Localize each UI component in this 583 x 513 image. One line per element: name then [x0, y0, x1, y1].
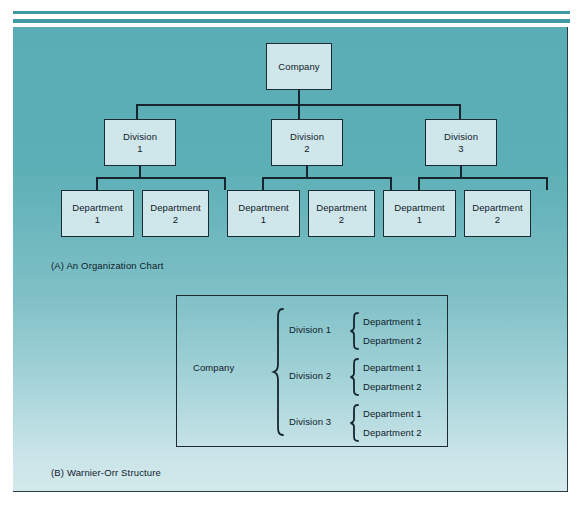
connector-bus-to-division-3 — [459, 104, 461, 119]
connector-division-3-to-department-1 — [418, 177, 420, 190]
warnier-department-2-1: Department 1 — [363, 358, 422, 377]
org-node-division-2: Division 2 — [271, 119, 343, 166]
warnier-root-label: Company — [193, 362, 234, 373]
caption-a: (A) An Organization Chart — [51, 260, 164, 271]
connector-division-2-to-department-2 — [390, 177, 392, 190]
org-node-department-3-1-line1: Department — [394, 202, 445, 214]
brace-inner-1-icon — [349, 312, 360, 350]
connector-division-1-to-department-2 — [224, 177, 226, 190]
org-node-department-1-1: Department 1 — [61, 190, 134, 237]
warnier-department-2-2: Department 2 — [363, 377, 422, 396]
brace-inner-2-icon — [349, 358, 360, 396]
brace-outer-icon — [272, 308, 286, 436]
brace-inner-3-icon — [349, 404, 360, 442]
top-rule-1 — [13, 11, 570, 14]
warnier-division-3-label: Division 3 — [289, 416, 331, 427]
org-node-department-1-1-line2: 1 — [95, 214, 100, 226]
connector-division-2-to-department-1 — [262, 177, 264, 190]
org-node-department-2-2-line2: 2 — [339, 214, 344, 226]
org-node-division-2-line2: 2 — [304, 143, 309, 155]
connector-division-1-down — [139, 166, 141, 177]
org-node-department-1-2-line2: 2 — [173, 214, 178, 226]
warnier-department-1-2: Department 2 — [363, 331, 422, 350]
caption-b: (B) Warnier-Orr Structure — [51, 467, 161, 478]
warnier-group-1: Division 1 Department 1 Department 2 — [289, 312, 449, 350]
connector-division-3-bus — [418, 177, 548, 179]
warnier-group-3-departments: Department 1 Department 2 — [363, 404, 422, 442]
warnier-department-1-1: Department 1 — [363, 312, 422, 331]
connector-division-2-down — [306, 166, 308, 177]
connector-division-3-to-department-2 — [546, 177, 548, 190]
org-node-division-3-line1: Division — [444, 131, 478, 143]
figure-panel: Company Division 1 Division 2 Division 3… — [13, 27, 568, 492]
org-node-division-3: Division 3 — [425, 119, 497, 166]
connector-company-down — [298, 90, 300, 104]
org-node-company: Company — [266, 43, 332, 90]
warnier-division-2-label: Division 2 — [289, 370, 331, 381]
warnier-group-1-departments: Department 1 Department 2 — [363, 312, 422, 350]
org-node-department-1-2-line1: Department — [150, 202, 201, 214]
warnier-group-3: Division 3 Department 1 Department 2 — [289, 404, 449, 442]
org-node-department-3-2-line1: Department — [472, 202, 523, 214]
org-node-department-2-1-line1: Department — [238, 202, 289, 214]
org-node-department-3-2: Department 2 — [464, 190, 531, 237]
warnier-group-2: Division 2 Department 1 Department 2 — [289, 358, 449, 396]
org-node-department-3-2-line2: 2 — [495, 214, 500, 226]
connector-division-2-bus — [262, 177, 392, 179]
warnier-department-3-1: Department 1 — [363, 404, 422, 423]
org-node-division-1: Division 1 — [104, 119, 176, 166]
org-node-department-3-1-line2: 1 — [417, 214, 422, 226]
warnier-department-3-2: Department 2 — [363, 423, 422, 442]
org-node-department-2-2: Department 2 — [308, 190, 375, 237]
org-node-department-2-1-line2: 1 — [261, 214, 266, 226]
org-node-company-label: Company — [278, 61, 319, 73]
warnier-groups: Division 1 Department 1 Department 2 Div… — [289, 308, 449, 438]
connector-division-3-down — [460, 166, 462, 177]
warnier-group-2-departments: Department 1 Department 2 — [363, 358, 422, 396]
warnier-division-1-label: Division 1 — [289, 324, 331, 335]
org-node-division-3-line2: 3 — [458, 143, 463, 155]
org-node-department-1-1-line1: Department — [72, 202, 123, 214]
connector-bus-to-division-2 — [298, 104, 300, 119]
connector-division-1-bus — [96, 177, 226, 179]
org-node-department-3-1: Department 1 — [383, 190, 456, 237]
org-node-department-2-2-line1: Department — [316, 202, 367, 214]
connector-division-1-to-department-1 — [96, 177, 98, 190]
top-rule-2 — [13, 19, 570, 23]
org-node-department-1-2: Department 2 — [142, 190, 209, 237]
org-node-division-1-line2: 1 — [137, 143, 142, 155]
connector-bus-to-division-1 — [136, 104, 138, 119]
organization-chart: Company Division 1 Division 2 Division 3… — [13, 27, 568, 262]
figure-page: Company Division 1 Division 2 Division 3… — [0, 0, 583, 513]
org-node-division-2-line1: Division — [290, 131, 324, 143]
org-node-division-1-line1: Division — [123, 131, 157, 143]
warnier-orr-diagram: Company Division 1 Department 1 — [176, 295, 448, 447]
org-node-department-2-1: Department 1 — [227, 190, 300, 237]
